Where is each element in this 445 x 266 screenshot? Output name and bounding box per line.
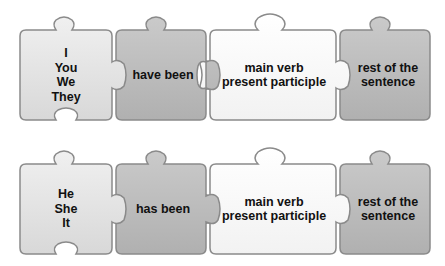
subject-label: He She It [20, 164, 112, 254]
subject-line: He [58, 187, 74, 202]
auxiliary-line: has been [136, 202, 190, 217]
auxiliary-line: have been [132, 68, 193, 83]
subject-line: You [55, 61, 78, 76]
rest-line: rest of the [358, 195, 418, 210]
subject-line: We [57, 75, 76, 90]
rest-line: sentence [361, 209, 415, 224]
rest-label: rest of the sentence [346, 164, 430, 254]
subject-line: It [62, 216, 70, 231]
auxiliary-label: have been [120, 30, 206, 120]
subject-line: She [55, 202, 78, 217]
main-verb-label: main verb present participle [212, 164, 336, 254]
main-verb-line: present participle [222, 75, 326, 90]
main-verb-line: present participle [222, 209, 326, 224]
subject-line: They [51, 90, 80, 105]
main-verb-line: main verb [244, 61, 303, 76]
rest-line: sentence [361, 75, 415, 90]
main-verb-line: main verb [244, 195, 303, 210]
auxiliary-label: has been [120, 164, 206, 254]
subject-label: I You We They [20, 30, 112, 120]
rest-label: rest of the sentence [346, 30, 430, 120]
rest-line: rest of the [358, 61, 418, 76]
main-verb-label: main verb present participle [212, 30, 336, 120]
subject-line: I [64, 46, 67, 61]
